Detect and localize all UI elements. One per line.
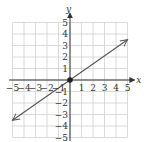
- x-tick-label: 5: [125, 83, 131, 93]
- y-tick-label: −1: [55, 87, 68, 97]
- y-tick-label: 1: [62, 64, 68, 74]
- y-tick-label: 4: [62, 29, 68, 39]
- y-tick-label: −2: [55, 98, 68, 108]
- y-tick-label: 5: [62, 18, 68, 28]
- y-tick-label: −3: [55, 110, 69, 120]
- y-tick-label: −5: [55, 133, 69, 142]
- coordinate-plane-chart: −5−4−3−2−11234554321−1−2−3−4−5 x y: [0, 0, 144, 141]
- axes: [9, 13, 134, 141]
- y-axis-label: y: [65, 4, 72, 14]
- y-tick-label: 3: [62, 41, 68, 51]
- y-tick-label: −4: [55, 121, 69, 131]
- x-axis-label: x: [136, 75, 141, 85]
- x-tick-label: 4: [113, 83, 119, 93]
- x-tick-label: 2: [90, 83, 96, 93]
- y-tick-label: 2: [62, 52, 68, 62]
- x-tick-label: 3: [102, 83, 108, 93]
- x-tick-label: 1: [79, 83, 85, 93]
